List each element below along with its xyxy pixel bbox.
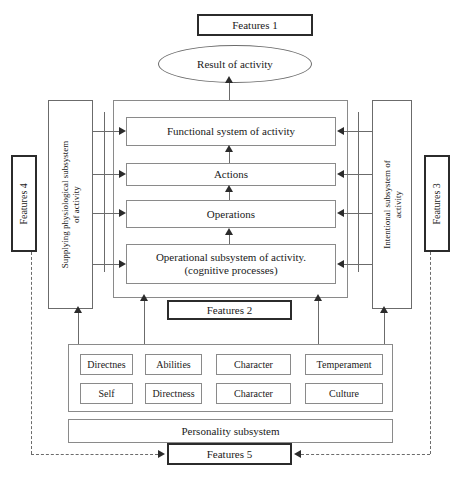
functional-system-label: Functional system of activity [167, 125, 295, 138]
trait-box-culture[interactable]: Culture [305, 383, 383, 404]
operational-subsystem-label-line2: (cognitive processes) [184, 264, 277, 277]
trait-label-self: Self [98, 388, 114, 400]
right-feed-arrow-1 [337, 127, 344, 135]
features-3-box[interactable]: Features 3 [424, 155, 450, 252]
trait-label-culture: Culture [329, 388, 359, 400]
trait-label-character-2: Character [234, 388, 273, 400]
operations-label: Operations [207, 208, 255, 221]
arrowhead-actions-to-functional [225, 145, 233, 152]
features-3-label: Features 3 [431, 183, 443, 224]
personality-subsystem-box[interactable]: Personality subsystem [68, 419, 393, 443]
right-feed-arrow-4 [337, 260, 344, 268]
features-4-box[interactable]: Features 4 [11, 155, 37, 252]
features-4-text: Features 4 [18, 183, 30, 224]
right-feed-line-3 [344, 213, 373, 214]
arrowhead-traits-to-container-right [314, 294, 322, 301]
connector-traits-to-intentional [384, 312, 385, 344]
features-5-label: Features 5 [207, 448, 253, 461]
operations-box[interactable]: Operations [126, 200, 336, 228]
arrowhead-operational-to-operations [225, 228, 233, 235]
supplying-subsystem-line2: of activity [71, 141, 82, 269]
functional-system-box[interactable]: Functional system of activity [126, 117, 336, 146]
intentional-subsystem-text: Intentional subsystem of activity [381, 160, 402, 249]
connector-center-to-result [229, 83, 230, 101]
features-2-label: Features 2 [207, 304, 253, 317]
trait-label-directness: Directness [152, 388, 194, 400]
features-5-box[interactable]: Features 5 [167, 443, 292, 465]
result-of-activity-label: Result of activity [197, 58, 273, 70]
connector-traits-to-supplying [78, 312, 79, 344]
operational-subsystem-label-line1: Operational subsystem of activity. [156, 251, 306, 264]
intentional-subsystem-line1: Intentional subsystem of [381, 160, 392, 249]
arrowhead-center-to-result [225, 76, 233, 83]
right-feed-arrow-2 [337, 170, 344, 178]
trait-box-character-1[interactable]: Character [216, 354, 291, 375]
features-4-label: Features 4 [18, 183, 30, 224]
right-feed-line-1 [344, 131, 373, 132]
arrowhead-traits-to-intentional [380, 306, 388, 313]
operational-subsystem-box[interactable]: Operational subsystem of activity. (cogn… [126, 244, 336, 284]
supplying-physiological-subsystem-text: Supplying physiological subsystem of act… [60, 141, 81, 269]
dashed-line-left-horizontal [31, 454, 158, 455]
trait-label-character-1: Character [234, 359, 273, 371]
trait-label-temperament: Temperament [317, 359, 372, 371]
features-2-box[interactable]: Features 2 [167, 300, 292, 320]
arrowhead-traits-to-supplying [74, 306, 82, 313]
arrowhead-dashed-right-to-features-5 [294, 450, 301, 458]
left-feed-arrow-3 [119, 209, 126, 217]
intentional-subsystem-box[interactable]: Intentional subsystem of activity [372, 100, 412, 309]
right-feed-arrow-3 [337, 209, 344, 217]
supplying-physiological-subsystem-box[interactable]: Supplying physiological subsystem of act… [48, 100, 93, 309]
actions-label: Actions [214, 168, 248, 181]
trait-label-abilities: Abilities [156, 359, 190, 371]
trait-box-directness[interactable]: Directness [145, 383, 202, 404]
arrowhead-dashed-left-to-features-5 [158, 450, 165, 458]
dashed-line-right-vertical [430, 252, 431, 454]
right-feed-line-4 [344, 264, 373, 265]
left-feed-line-4 [93, 264, 119, 265]
right-trunk-line [358, 112, 359, 272]
left-feed-line-2 [93, 174, 119, 175]
left-feed-line-3 [93, 213, 119, 214]
supplying-subsystem-line1: Supplying physiological subsystem [60, 141, 71, 269]
trait-box-directnes[interactable]: Directnes [80, 354, 133, 375]
trait-label-directnes: Directnes [87, 359, 125, 371]
intentional-subsystem-line2: activity [392, 160, 403, 249]
actions-box[interactable]: Actions [126, 163, 336, 186]
arrowhead-traits-to-container-left [140, 294, 148, 301]
features-1-box[interactable]: Features 1 [197, 14, 313, 36]
left-feed-line-1 [93, 131, 119, 132]
diagram-canvas: Features 1 Result of activity Functional… [0, 0, 456, 481]
trait-box-abilities[interactable]: Abilities [145, 354, 202, 375]
features-3-text: Features 3 [431, 183, 443, 224]
left-trunk-line [104, 112, 105, 272]
connector-traits-to-container-right [318, 300, 319, 344]
left-feed-arrow-4 [119, 260, 126, 268]
connector-traits-to-container-left [144, 300, 145, 344]
dashed-line-left-vertical [31, 252, 32, 454]
right-feed-line-2 [344, 174, 373, 175]
dashed-line-right-horizontal [301, 454, 430, 455]
left-feed-arrow-1 [119, 127, 126, 135]
arrowhead-operations-to-actions [225, 185, 233, 192]
features-1-label: Features 1 [232, 19, 278, 32]
trait-box-self[interactable]: Self [80, 383, 133, 404]
personality-subsystem-label: Personality subsystem [181, 425, 279, 438]
trait-box-temperament[interactable]: Temperament [305, 354, 383, 375]
result-of-activity-node[interactable]: Result of activity [158, 45, 312, 83]
trait-box-character-2[interactable]: Character [216, 383, 291, 404]
left-feed-arrow-2 [119, 170, 126, 178]
